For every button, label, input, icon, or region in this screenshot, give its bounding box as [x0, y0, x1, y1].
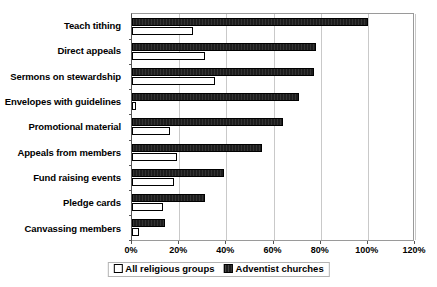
bar-adventist-churches: [132, 18, 368, 26]
bar-adventist-churches: [132, 93, 299, 101]
x-axis: 0%20%40%60%80%100%120%: [131, 241, 414, 257]
category-label-pledge-cards: Pledge cards: [0, 190, 126, 215]
x-tick-label: 60%: [263, 245, 281, 255]
x-tick-label: 100%: [355, 245, 378, 255]
bar-chart: Teach tithing Direct appeals Sermons on …: [0, 0, 437, 287]
legend-item-all-religious-groups: All religious groups: [113, 264, 214, 274]
legend-swatch-white-square-icon: [113, 264, 122, 273]
x-tick-mark: [225, 241, 226, 244]
x-tick-label: 40%: [216, 245, 234, 255]
x-tick-mark: [414, 241, 415, 244]
bar-group: [132, 114, 413, 139]
category-label-teach-tithing: Teach tithing: [0, 13, 126, 38]
bar-adventist-churches: [132, 68, 314, 76]
bar-group: [132, 215, 413, 240]
bar-all-religious-groups: [132, 27, 193, 35]
bar-group: [132, 64, 413, 89]
gridline-120: [415, 14, 416, 240]
bar-adventist-churches: [132, 219, 165, 227]
bar-all-religious-groups: [132, 77, 215, 85]
bar-adventist-churches: [132, 169, 224, 177]
category-label-sermons-on-stewardship: Sermons on stewardship: [0, 64, 126, 89]
legend-label-all-religious-groups: All religious groups: [125, 264, 214, 274]
bar-all-religious-groups: [132, 203, 163, 211]
category-label-fund-raising-events: Fund raising events: [0, 165, 126, 190]
x-tick-mark: [273, 241, 274, 244]
x-tick-mark: [367, 241, 368, 244]
bar-adventist-churches: [132, 194, 205, 202]
bar-adventist-churches: [132, 144, 262, 152]
x-tick-label: 120%: [402, 245, 425, 255]
category-label-direct-appeals: Direct appeals: [0, 38, 126, 63]
x-tick-mark: [178, 241, 179, 244]
bar-group: [132, 14, 413, 39]
legend-swatch-black-square-icon: [224, 264, 233, 273]
plot-area: [131, 13, 414, 241]
bar-rows: [132, 14, 413, 240]
category-label-canvassing-members: Canvassing members: [0, 216, 126, 241]
legend: All religious groups Adventist churches: [107, 262, 329, 277]
bar-adventist-churches: [132, 43, 316, 51]
x-tick-mark: [320, 241, 321, 244]
category-label-promotional-material: Promotional material: [0, 114, 126, 139]
bar-adventist-churches: [132, 118, 283, 126]
legend-item-adventist-churches: Adventist churches: [224, 264, 324, 274]
legend-label-adventist-churches: Adventist churches: [236, 264, 324, 274]
x-tick-label: 80%: [311, 245, 329, 255]
category-label-appeals-from-members: Appeals from members: [0, 140, 126, 165]
bar-all-religious-groups: [132, 228, 139, 236]
bar-group: [132, 140, 413, 165]
bar-all-religious-groups: [132, 153, 177, 161]
bar-all-religious-groups: [132, 127, 170, 135]
x-tick-label: 20%: [169, 245, 187, 255]
category-label-envelopes-with-guidelines: Envelopes with guidelines: [0, 89, 126, 114]
bar-group: [132, 39, 413, 64]
bar-all-religious-groups: [132, 178, 174, 186]
x-tick-label: 0%: [124, 245, 137, 255]
bar-group: [132, 190, 413, 215]
x-tick-mark: [131, 241, 132, 244]
bar-group: [132, 89, 413, 114]
bar-group: [132, 165, 413, 190]
bar-all-religious-groups: [132, 102, 136, 110]
bar-all-religious-groups: [132, 52, 205, 60]
category-axis-labels: Teach tithing Direct appeals Sermons on …: [0, 13, 126, 241]
